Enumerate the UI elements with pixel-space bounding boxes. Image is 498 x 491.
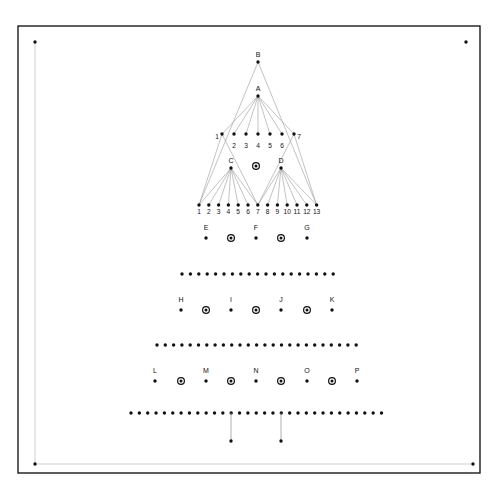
dot-row-1-dot-6 [231,272,234,275]
dot-row-2-dot-14 [272,343,275,346]
tree-label-D: D [278,157,283,164]
row-hijk-node-I [229,308,232,311]
row-efg-node-E [204,236,207,239]
dot-row-1-dot-7 [239,272,242,275]
dot-row-1-dot-5 [222,272,225,275]
dot-row-3-dot-19 [288,411,291,414]
tree-edge-mid-left-down2 [222,134,258,205]
row-lmnop-node-O [305,379,308,382]
row-efg-label-F: F [254,224,258,231]
dot-row-2-dot-22 [338,343,341,346]
tree-leaf-label-10: 10 [284,208,292,215]
tree-edge-root-left [199,62,258,205]
dot-row-3-dot-30 [380,411,383,414]
dot-row-3-dot-2 [146,411,149,414]
row-efg-circled-3-core [280,237,283,240]
row-hijk-label-I: I [230,296,232,303]
dot-row-3-dot-15 [255,411,258,414]
row-efg-node-F [254,236,257,239]
dot-row-3-dot-10 [213,411,216,414]
row-lmnop-node-L [153,379,156,382]
dot-row-3-dot-20 [296,411,299,414]
dot-row-2-dot-11 [247,343,250,346]
tree-leaf-label-6: 6 [246,208,250,215]
row-efg-circled-1-core [230,237,233,240]
tree-edge-a-2 [234,96,258,134]
row-lmnop-node-M [204,379,207,382]
tree-edge-a-6 [258,96,282,134]
dot-row-1-dot-14 [298,272,301,275]
dot-row-3-dot-27 [355,411,358,414]
tree-edge-d-12 [281,168,307,205]
dot-row-2-dot-6 [205,343,208,346]
tree-leaf-label-11: 11 [294,208,301,215]
dot-row-1-dot-17 [323,272,326,275]
tree-edge-a-1 [222,96,258,134]
tree-leaf-label-1: 1 [197,208,201,215]
tree-mid-node-2 [232,132,235,135]
dot-row-1-dot-10 [264,272,267,275]
tree-leaf-label-7: 7 [256,208,260,215]
tree-edge-a-3 [246,96,258,134]
dot-row-3-dot-9 [204,411,207,414]
drop-lines-end-dot-1 [279,439,282,442]
tree-leaf-node-10 [286,203,289,206]
tree-leaf-label-12: 12 [303,208,311,215]
row-lmnop-label-L: L [153,367,157,374]
row-hijk-label-K: K [330,296,335,303]
row-lmnop-circled-5-core [280,380,283,383]
tree-mid-node-1 [220,132,223,135]
tree-mid-node-6 [280,132,283,135]
tree-mid-label-5: 5 [268,142,272,149]
tree-leaf-node-9 [276,203,279,206]
dot-row-3-dot-24 [330,411,333,414]
dot-row-2-dot-0 [155,343,158,346]
row-hijk-circled-3-core [255,309,258,312]
dot-row-3-dot-13 [238,411,241,414]
dot-row-1-dot-3 [206,272,209,275]
tree-leaf-label-3: 3 [217,208,221,215]
dot-row-3-dot-5 [171,411,174,414]
tree-edge-d-11 [281,168,297,205]
dot-row-2-dot-8 [222,343,225,346]
tree-mid-label-4: 4 [256,142,260,149]
row-lmnop-label-N: N [253,367,258,374]
dot-row-2-dot-17 [296,343,299,346]
tree-node-C [229,166,232,169]
row-hijk-circled-1-core [205,309,208,312]
row-lmnop-circled-7-core [331,380,334,383]
tree-edge-c-7 [231,168,258,205]
dot-row-1-dot-16 [315,272,318,275]
tree-leaf-node-11 [295,203,298,206]
dot-row-3-dot-3 [154,411,157,414]
tree-diagram-svg: BA1234567CD12345678910111213EFGHIJKLMNOP [0,0,498,491]
dot-row-3-dot-17 [271,411,274,414]
tree-edge-root-right [258,62,317,205]
tree-mid-label-1: 1 [215,133,219,140]
row-hijk-label-H: H [178,296,183,303]
dot-row-3-dot-0 [129,411,132,414]
dot-row-1-dot-12 [281,272,284,275]
tree-leaf-node-4 [227,203,230,206]
tree-node-A [256,94,259,97]
dot-row-3-dot-14 [246,411,249,414]
tree-leaf-node-13 [315,203,318,206]
dot-row-1-dot-13 [290,272,293,275]
tree-leaf-node-7 [256,203,259,206]
row-hijk-label-J: J [279,296,283,303]
dot-row-3-dot-7 [188,411,191,414]
tree-edge-c-5 [231,168,238,205]
row-efg-label-G: G [304,224,309,231]
tree-label-B: B [256,51,261,58]
corner-dot-top-right [464,40,467,43]
tree-label-C: C [228,157,233,164]
dot-row-1-dot-0 [180,272,183,275]
dot-row-2-dot-16 [288,343,291,346]
tree-mid-node-5 [268,132,271,135]
tree-edge-c-3 [219,168,231,205]
tree-edge-mid-left-down [199,134,222,205]
row-hijk-node-K [330,308,333,311]
dot-row-1-dot-9 [256,272,259,275]
tree-leaf-node-6 [246,203,249,206]
tree-mid-node-3 [244,132,247,135]
